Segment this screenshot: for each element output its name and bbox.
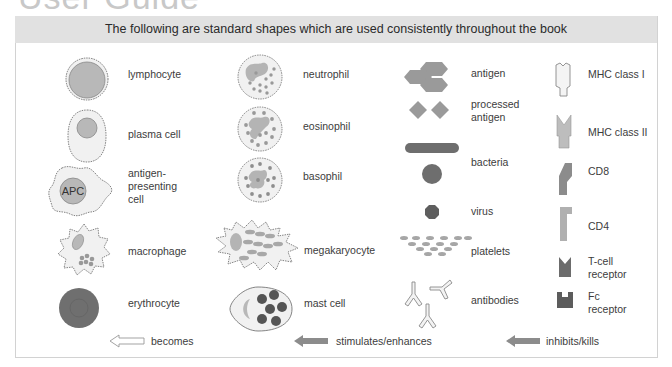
bacteria-icon: [404, 142, 460, 186]
apc-icon: APC: [44, 162, 116, 220]
label-apc: antigen- presenting cell: [128, 167, 177, 206]
virus-icon: [424, 204, 440, 220]
becomes-arrow-icon: [109, 334, 145, 348]
label-macrophage: macrophage: [128, 245, 186, 258]
label-bacteria: bacteria: [471, 156, 508, 169]
label-lymphocyte: lymphocyte: [128, 68, 181, 81]
label-fc-receptor: Fc receptor: [588, 290, 627, 316]
legend-banner-text: The following are standard shapes which …: [15, 16, 657, 43]
label-antibodies: antibodies: [471, 294, 519, 307]
erythrocyte-icon: [58, 287, 100, 329]
macrophage-icon: [56, 222, 112, 278]
processed-antigen-icon: [408, 100, 450, 122]
legend-banner: The following are standard shapes which …: [15, 16, 657, 43]
label-stimulates: stimulates/enhances: [336, 335, 432, 348]
label-erythrocyte: erythrocyte: [128, 297, 180, 310]
mhc-class-1-icon: [555, 62, 571, 98]
label-cd8: CD8: [588, 165, 609, 178]
label-antigen: antigen: [471, 67, 505, 80]
label-basophil: basophil: [303, 170, 342, 183]
label-virus: virus: [471, 205, 493, 218]
label-megakaryocyte: megakaryocyte: [304, 244, 375, 257]
megakaryocyte-icon: [214, 218, 300, 272]
label-mast-cell: mast cell: [304, 297, 345, 310]
basophil-icon: [236, 156, 284, 204]
label-processed-antigen: processed antigen: [471, 98, 519, 124]
platelets-icon: [400, 234, 472, 256]
cd4-icon: [559, 206, 573, 242]
label-mhc-class-2: MHC class II: [588, 126, 648, 139]
label-mhc-class-1: MHC class I: [588, 68, 645, 81]
label-neutrophil: neutrophil: [303, 68, 349, 81]
fc-receptor-icon: [557, 292, 573, 308]
apc-text: APC: [62, 185, 85, 197]
mast-cell-icon: [228, 285, 294, 333]
label-t-cell-receptor: T-cell receptor: [588, 255, 627, 281]
label-cd4: CD4: [588, 220, 609, 233]
antigen-icon: [406, 60, 452, 94]
page-title: User Guide: [18, 0, 200, 17]
neutrophil-icon: [236, 53, 284, 101]
label-eosinophil: eosinophil: [303, 120, 350, 133]
label-inhibits: inhibits/kills: [546, 335, 599, 348]
mhc-class-2-icon: [556, 114, 572, 150]
stimulates-arrow-icon: [293, 334, 329, 348]
cd8-icon: [557, 162, 573, 196]
inhibits-arrow-icon: [505, 334, 541, 348]
t-cell-receptor-icon: [558, 256, 572, 278]
eosinophil-icon: [236, 105, 284, 153]
lymphocyte-icon: [64, 56, 110, 102]
antibodies-icon: [404, 278, 454, 328]
plasma-cell-icon: [66, 108, 108, 164]
label-plasma-cell: plasma cell: [128, 128, 181, 141]
label-becomes: becomes: [151, 335, 194, 348]
label-platelets: platelets: [471, 245, 510, 258]
